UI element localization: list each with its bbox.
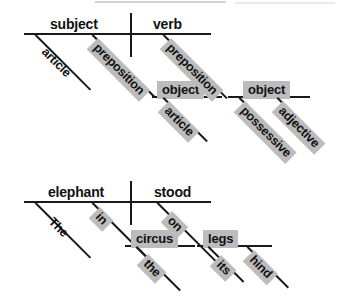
cropped-artifact-right <box>235 2 335 4</box>
word-preposition-1: preposition <box>87 38 150 101</box>
elephant-stood-divider <box>130 181 132 225</box>
elephant-baseline <box>24 201 132 203</box>
word-in-preposition: in <box>89 207 113 231</box>
subject-verb-divider <box>130 13 132 57</box>
word-verb: verb <box>153 17 182 31</box>
cropped-artifact-left <box>95 1 226 3</box>
verb-baseline <box>132 33 211 35</box>
word-the-article: The <box>42 212 74 244</box>
word-elephant: elephant <box>48 185 104 199</box>
word-object-2: object <box>243 81 290 99</box>
word-the-determiner: the <box>137 254 166 283</box>
word-subject: subject <box>50 17 98 31</box>
word-hind-adjective: hind <box>243 250 278 285</box>
subject-baseline <box>24 33 132 35</box>
stood-baseline <box>132 201 211 203</box>
diagram-canvas: subject verb article preposition object … <box>0 0 342 300</box>
word-stood: stood <box>154 185 191 199</box>
word-article-1: article <box>35 42 77 84</box>
word-article-2: article <box>158 101 200 143</box>
